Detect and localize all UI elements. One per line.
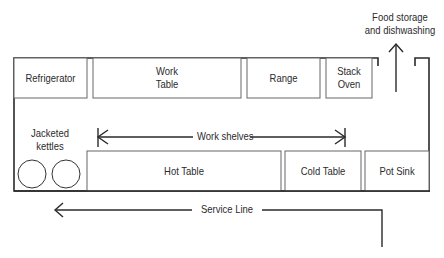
food-storage-text-line2: and dishwashing xyxy=(365,24,435,37)
work-table-text-line2: Table xyxy=(156,78,179,91)
work-table-label: Work Table xyxy=(103,58,230,98)
pot-sink-label: Pot Sink xyxy=(369,151,424,191)
kettle-1-icon xyxy=(18,160,46,188)
kettles-text-line1: Jacketed xyxy=(31,127,69,140)
kettle-2-icon xyxy=(52,160,80,188)
range-text: Range xyxy=(270,72,298,85)
cold-table-label: Cold Table xyxy=(290,151,355,191)
work-table-text-line1: Work xyxy=(156,65,178,78)
work-shelves-label: Work shelves xyxy=(197,130,246,143)
hot-table-label: Hot Table xyxy=(101,151,268,191)
stack-oven-text-line2: Oven xyxy=(338,78,361,91)
range-label: Range xyxy=(252,58,315,98)
service-line-label: Service Line xyxy=(197,203,257,216)
kettles-text-line2: kettles xyxy=(36,140,63,153)
stack-oven-label: Stack Oven xyxy=(329,58,369,98)
stack-oven-text-line1: Stack xyxy=(337,65,361,78)
kettle-icons xyxy=(18,160,80,188)
cold-table-text: Cold Table xyxy=(301,165,346,178)
food-storage-label: Food storage and dishwashing xyxy=(366,9,435,39)
food-storage-text-line1: Food storage xyxy=(372,11,428,24)
refrigerator-label: Refrigerator xyxy=(19,58,82,98)
hot-table-text: Hot Table xyxy=(164,165,204,178)
refrigerator-text: Refrigerator xyxy=(26,72,76,85)
pot-sink-text: Pot Sink xyxy=(379,165,414,178)
jacketed-kettles-label: Jacketed kettles xyxy=(21,126,79,154)
exit-up-arrow-icon xyxy=(389,44,403,92)
